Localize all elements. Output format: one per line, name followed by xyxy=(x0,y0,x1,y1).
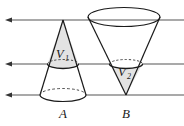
cones-diagram: V 1 A V 2 B xyxy=(0,0,184,126)
cone-b-top-rim xyxy=(88,8,160,27)
volume-label-v1-subscript: 1 xyxy=(65,54,69,63)
volume-label-v2-subscript: 2 xyxy=(127,72,131,81)
cone-a-lower-body xyxy=(40,64,86,102)
cone-a-caption: A xyxy=(58,106,67,121)
cone-b-caption: B xyxy=(122,106,130,121)
cone-a-group: V 1 A xyxy=(40,20,86,121)
figure-canvas: V 1 A V 2 B xyxy=(0,0,184,126)
